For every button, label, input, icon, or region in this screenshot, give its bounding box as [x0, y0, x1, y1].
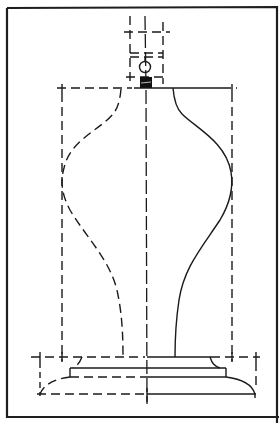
vase-right-profile: [173, 88, 232, 357]
plinth-base: [31, 352, 260, 402]
switch-knob-icon: [140, 62, 151, 73]
lamp-base-drawing: [0, 0, 279, 423]
vase-left-profile: [62, 89, 123, 357]
drawing-frame: [7, 7, 279, 423]
centerline: [145, 16, 147, 404]
lamp-socket: [124, 16, 170, 88]
